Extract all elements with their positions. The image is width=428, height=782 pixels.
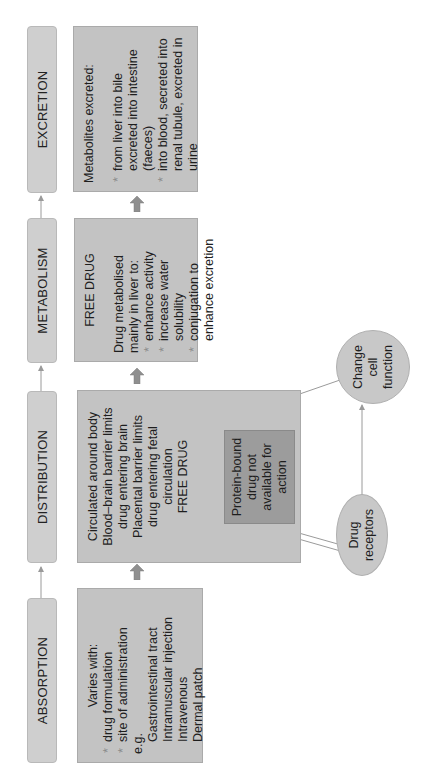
bullet-item: from liver into bile excreted into intes… [111,35,156,183]
metabolism-intro: mainly in liver to: [127,227,142,353]
absorption-eg: e.g. [131,597,146,754]
distribution-line: drug entering fetal [146,399,161,554]
metabolism-intro: Drug metabolised [112,227,127,353]
absorption-example: Intravenous [176,597,191,754]
distribution-line: circulation [161,399,176,554]
stage-header-absorption: ABSORPTION [27,598,57,763]
stage-header-distribution: DISTRIBUTION [27,391,57,563]
stage-header-metabolism: METABOLISM [27,218,57,363]
pharmacokinetics-diagram: ABSORPTION DISTRIBUTION METABOLISM EXCRE… [0,0,428,782]
drug-receptors-text: Drug receptors [347,495,377,575]
block-arrow-icon [130,196,144,212]
stage-label: EXCRETION [35,71,50,149]
protein-bound-text: Protein-bound drug not available for act… [230,435,290,519]
bullet-item: site of administration [116,597,131,754]
bullet-item: enhance activity [142,227,157,353]
excretion-bullets: from liver into bile excreted into intes… [111,35,201,183]
absorption-bullets: drug formulation site of administration [101,597,131,754]
block-arrow-icon [130,368,144,384]
absorption-box: Varies with: drug formulation site of ad… [77,588,203,763]
stage-header-excretion: EXCRETION [27,26,57,193]
protein-bound-box: Protein-bound drug not available for act… [224,430,295,524]
distribution-line: Circulated around body [86,399,101,554]
drug-receptors-node: Drug receptors [336,494,388,576]
change-cell-function-node: Change cell function [336,330,410,404]
bullet-item: conjugation to enhance excretion [187,227,217,353]
distribution-line: Placental barrier limits [131,399,146,554]
bullet-item: increase water solubility [157,227,187,353]
change-cell-function-text: Change cell function [351,342,396,392]
metabolism-bullets: enhance activity increase water solubili… [142,227,217,353]
absorption-example: Dermal patch [191,597,206,754]
excretion-intro: Metabolites excreted: [82,35,97,183]
distribution-line: Blood–brain barrier limits [101,399,116,554]
block-arrow-icon [130,564,144,580]
stage-label: DISTRIBUTION [35,430,50,524]
absorption-intro: Varies with: [86,597,101,754]
absorption-example: Intramuscular injection [161,597,176,754]
metabolism-box: FREE DRUG Drug metabolised mainly in liv… [74,218,198,362]
bullet-item: into blood, secreted into renal tubule, … [156,35,201,183]
bullet-item: drug formulation [101,597,116,754]
stage-label: ABSORPTION [35,637,50,724]
absorption-example: Gastrointestinal tract [146,597,161,754]
metabolism-title: FREE DRUG [83,227,98,353]
excretion-box: Metabolites excreted: from liver into bi… [73,26,198,192]
distribution-line: drug entering brain [116,399,131,554]
free-drug-label: FREE DRUG [176,399,191,554]
stage-label: METABOLISM [35,247,50,333]
